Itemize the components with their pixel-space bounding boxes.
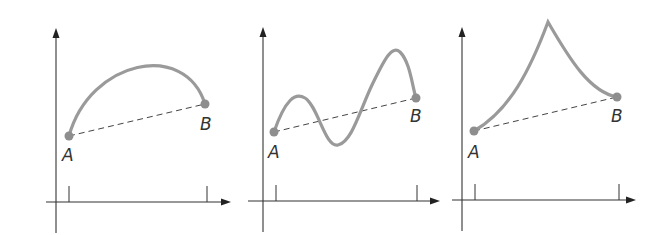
point-b (613, 93, 622, 102)
label-b: B (410, 106, 422, 126)
secant-line (69, 104, 205, 136)
curve (474, 22, 617, 131)
panel-3: A B (452, 22, 636, 231)
label-a: A (267, 142, 280, 162)
secant-line (274, 98, 416, 132)
panel-1: A B (46, 28, 231, 233)
panel-2: A B (248, 27, 440, 232)
label-a: A (61, 145, 74, 165)
x-axis-arrow-icon (626, 197, 636, 204)
point-b (201, 100, 210, 109)
y-axis-arrow-icon (260, 27, 267, 37)
curve (69, 66, 205, 136)
curve (274, 50, 416, 145)
label-b: B (200, 114, 212, 134)
figure-three-graphs: A B A B A B (0, 0, 663, 235)
label-a: A (467, 142, 480, 162)
point-a (65, 132, 74, 141)
x-axis-arrow-icon (430, 198, 440, 205)
y-axis-arrow-icon (459, 27, 466, 37)
label-b: B (611, 106, 623, 126)
y-axis-arrow-icon (53, 28, 60, 38)
point-a (470, 127, 479, 136)
point-b (412, 94, 421, 103)
point-a (270, 128, 279, 137)
x-axis-arrow-icon (221, 199, 231, 206)
